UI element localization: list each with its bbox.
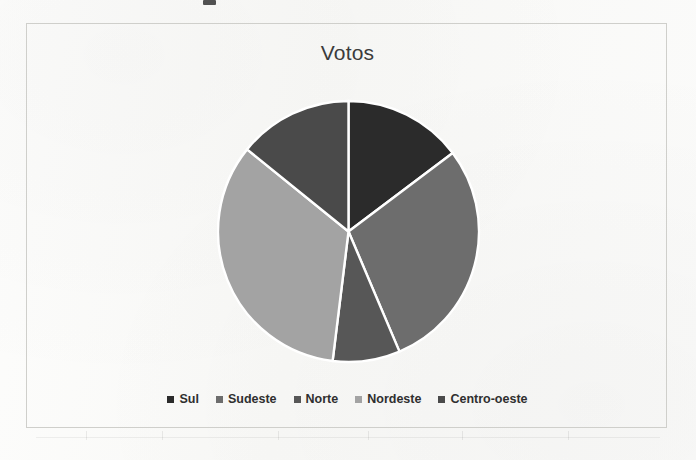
legend-item-label: Sul xyxy=(179,392,198,406)
legend-swatch-icon xyxy=(216,396,223,403)
legend-item[interactable]: Norte xyxy=(294,392,339,406)
legend-swatch-icon xyxy=(438,396,445,403)
page-rule-tick xyxy=(278,431,279,440)
page-rule-tick xyxy=(568,431,569,440)
legend-item[interactable]: Sudeste xyxy=(216,392,277,406)
page-rule-tick xyxy=(86,431,87,440)
page-rule-tick xyxy=(462,431,463,440)
page-rule-tick xyxy=(162,431,163,440)
legend-item[interactable]: Centro-oeste xyxy=(438,392,527,406)
legend-swatch-icon xyxy=(294,396,301,403)
legend-swatch-icon xyxy=(167,396,174,403)
scan-ink-fragment xyxy=(203,0,216,5)
legend-item[interactable]: Nordeste xyxy=(355,392,421,406)
page-rule-tick xyxy=(368,431,369,440)
chart-frame: Votos SulSudesteNorteNordesteCentro-oest… xyxy=(26,23,667,428)
pie-slice-group xyxy=(218,101,479,362)
legend-item-label: Centro-oeste xyxy=(450,392,527,406)
legend-swatch-icon xyxy=(355,396,362,403)
legend-item-label: Norte xyxy=(306,392,339,406)
chart-title: Votos xyxy=(27,41,668,65)
pie-chart-svg xyxy=(217,99,482,364)
pie-chart-plot-area xyxy=(217,99,482,364)
legend-item[interactable]: Sul xyxy=(167,392,198,406)
legend-item-label: Sudeste xyxy=(228,392,277,406)
page-rule-line xyxy=(36,437,660,438)
legend-item-label: Nordeste xyxy=(367,392,421,406)
chart-legend: SulSudesteNorteNordesteCentro-oeste xyxy=(27,392,668,406)
